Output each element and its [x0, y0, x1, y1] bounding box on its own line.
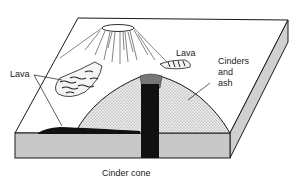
diagram-caption: Cinder cone [102, 168, 151, 178]
magma-conduit [141, 84, 159, 158]
cinder-cone-diagram: Lava Lava Cinders and ash Cinder cone [0, 0, 293, 181]
label-cinders: Cinders [218, 56, 249, 66]
label-ash: ash [218, 78, 233, 88]
block-front-face [15, 133, 230, 158]
label-lava-top: Lava [176, 48, 196, 58]
label-lava-left: Lava [10, 69, 30, 79]
label-and: and [218, 67, 233, 77]
diagram-illustration [0, 0, 293, 181]
